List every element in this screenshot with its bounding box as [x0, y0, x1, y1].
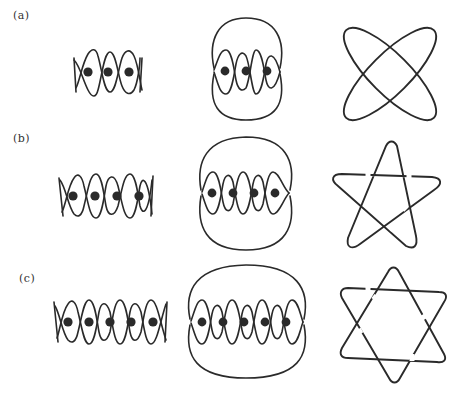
braid-c — [54, 300, 167, 344]
closure-c — [189, 265, 306, 378]
braid-a — [74, 50, 142, 96]
braid-b — [59, 174, 153, 218]
knot-c-hexagram — [341, 268, 446, 383]
knot-b-pentagram — [333, 142, 440, 248]
closure-b — [200, 137, 292, 250]
closure-a — [212, 18, 281, 120]
diagram-canvas — [0, 0, 459, 394]
knot-a-two-ellipses — [332, 16, 448, 132]
figure: (a) (b) (c) — [0, 0, 459, 394]
